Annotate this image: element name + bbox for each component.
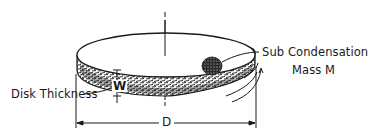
diameter-symbol-d: D xyxy=(159,116,174,129)
disk-thickness-label: Disk Thickness xyxy=(11,88,98,101)
sub-condensation-mass xyxy=(202,57,222,75)
disk-top-face xyxy=(77,33,255,77)
sub-condensation-label: Sub Condensation xyxy=(262,46,368,59)
thickness-symbol-w: W xyxy=(112,80,127,92)
mass-m-label: Mass M xyxy=(292,64,335,77)
